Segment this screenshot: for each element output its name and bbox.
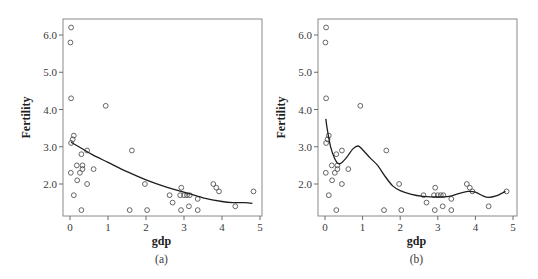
- data-point: [127, 208, 132, 213]
- data-point: [340, 148, 345, 153]
- data-point: [323, 170, 328, 175]
- data-point: [68, 40, 73, 45]
- x-tick-label: 5: [257, 221, 263, 233]
- y-tick-label: 3.0: [43, 141, 57, 153]
- data-point: [323, 40, 328, 45]
- data-point: [397, 182, 402, 187]
- data-point: [170, 200, 175, 205]
- panel-caption: (a): [155, 253, 168, 266]
- data-point: [130, 148, 135, 153]
- data-point: [233, 204, 238, 209]
- x-axis-title: gdp: [152, 234, 172, 248]
- x-tick-label: 3: [181, 221, 187, 233]
- data-point: [449, 208, 454, 213]
- data-point: [326, 193, 331, 198]
- y-tick-label: 4.0: [43, 104, 57, 116]
- data-point: [75, 178, 80, 183]
- data-point: [382, 208, 387, 213]
- plot-frame: [318, 19, 517, 216]
- data-point: [69, 96, 74, 101]
- x-tick-label: 4: [219, 221, 225, 233]
- data-point: [74, 163, 79, 168]
- data-point: [329, 163, 334, 168]
- data-point: [399, 208, 404, 213]
- y-tick-label: 5.0: [43, 66, 57, 78]
- y-tick-label: 6.0: [298, 29, 312, 41]
- data-point: [78, 170, 83, 175]
- x-tick-label: 2: [143, 221, 149, 233]
- x-tick-label: 0: [322, 221, 328, 233]
- data-point: [332, 170, 337, 175]
- data-point: [334, 152, 339, 157]
- data-point: [187, 204, 192, 209]
- chart-panel-a: 0123452.03.04.05.06.0gdpFertility(a): [19, 19, 263, 266]
- data-point: [486, 204, 491, 209]
- data-point: [384, 148, 389, 153]
- y-tick-label: 3.0: [298, 141, 312, 153]
- x-axis-title: gdp: [407, 234, 427, 248]
- data-point: [217, 189, 222, 194]
- data-point: [68, 170, 73, 175]
- data-point: [324, 25, 329, 30]
- data-point: [330, 178, 335, 183]
- data-point: [143, 182, 148, 187]
- data-point: [424, 200, 429, 205]
- data-point: [167, 193, 172, 198]
- data-point: [179, 185, 184, 190]
- x-tick-label: 4: [473, 221, 479, 233]
- data-point: [449, 197, 454, 202]
- y-tick-label: 6.0: [43, 29, 57, 41]
- data-point: [346, 167, 351, 172]
- data-point: [85, 182, 90, 187]
- x-tick-label: 0: [67, 221, 73, 233]
- y-tick-label: 4.0: [298, 104, 312, 116]
- data-point: [79, 152, 84, 157]
- data-point: [324, 96, 329, 101]
- data-point: [195, 208, 200, 213]
- y-axis-title: Fertility: [274, 97, 288, 139]
- x-tick-label: 5: [510, 221, 516, 233]
- y-axis-title: Fertility: [19, 97, 33, 139]
- data-point: [145, 208, 150, 213]
- data-point: [71, 193, 76, 198]
- x-tick-label: 1: [360, 221, 366, 233]
- data-point: [340, 182, 345, 187]
- data-point: [79, 208, 84, 213]
- y-tick-label: 2.0: [43, 178, 57, 190]
- data-point: [179, 208, 184, 213]
- data-point: [334, 208, 339, 213]
- x-tick-label: 2: [397, 221, 403, 233]
- data-point: [91, 167, 96, 172]
- data-point: [440, 204, 445, 209]
- data-point: [358, 103, 363, 108]
- chart-panel-b: 0123452.03.04.05.06.0gdpFertility(b): [274, 19, 517, 266]
- data-point: [433, 185, 438, 190]
- smooth-fit-line: [71, 142, 252, 203]
- x-tick-label: 3: [435, 221, 441, 233]
- x-tick-label: 1: [105, 221, 111, 233]
- data-point: [432, 208, 437, 213]
- data-point: [251, 189, 256, 194]
- y-tick-label: 5.0: [298, 66, 312, 78]
- smooth-fit-line: [326, 119, 506, 198]
- figure: 0123452.03.04.05.06.0gdpFertility(a)0123…: [0, 0, 538, 279]
- panel-caption: (b): [410, 253, 424, 266]
- y-tick-label: 2.0: [298, 178, 312, 190]
- data-point: [69, 25, 74, 30]
- data-point: [103, 103, 108, 108]
